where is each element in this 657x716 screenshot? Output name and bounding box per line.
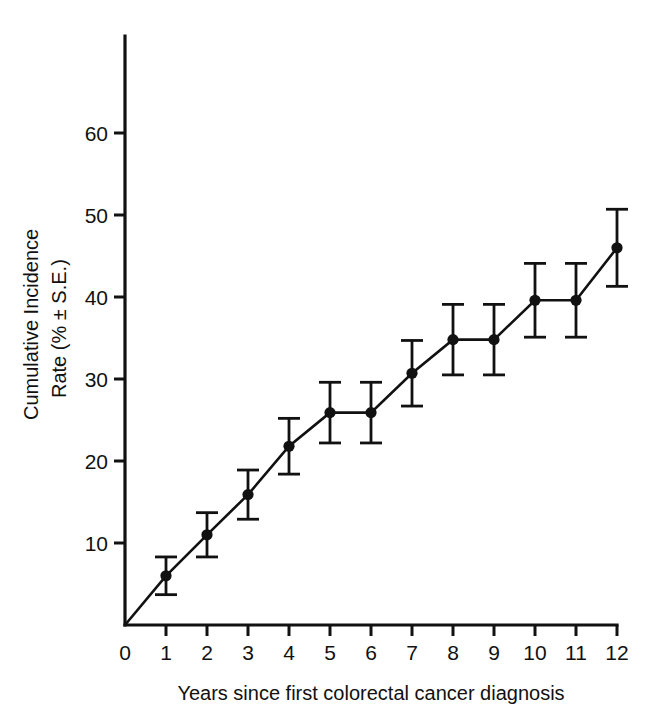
x-tick-label: 8 bbox=[447, 641, 459, 664]
y-tick-label: 50 bbox=[85, 204, 108, 227]
x-tick-label: 10 bbox=[523, 641, 546, 664]
error-bar-group bbox=[155, 209, 628, 594]
y-axis-title: Cumulative Incidence Rate (% ± S.E.) bbox=[20, 229, 70, 420]
cumulative-incidence-line-chart: Cumulative Incidence Rate (% ± S.E.) 102… bbox=[0, 0, 657, 716]
y-tick-label: 10 bbox=[85, 532, 108, 555]
y-tick-label: 30 bbox=[85, 368, 108, 391]
x-axis-ticks: 0123456789101112 bbox=[119, 625, 629, 664]
x-tick-label: 4 bbox=[283, 641, 295, 664]
data-point-marker bbox=[611, 242, 622, 253]
figure-container: Cumulative Incidence Rate (% ± S.E.) 102… bbox=[0, 0, 657, 716]
data-point-marker bbox=[324, 407, 335, 418]
x-tick-label: 3 bbox=[242, 641, 254, 664]
data-point-marker bbox=[529, 295, 540, 306]
data-point-marker bbox=[242, 489, 253, 500]
data-point-marker bbox=[488, 334, 499, 345]
y-tick-label: 60 bbox=[85, 122, 108, 145]
data-point-marker bbox=[447, 334, 458, 345]
data-point-marker bbox=[160, 570, 171, 581]
y-tick-label: 20 bbox=[85, 450, 108, 473]
x-tick-label: 12 bbox=[605, 641, 628, 664]
x-tick-label: 0 bbox=[119, 641, 131, 664]
y-tick-label: 40 bbox=[85, 286, 108, 309]
y-axis-title-line1: Cumulative Incidence bbox=[20, 229, 42, 420]
x-tick-label: 11 bbox=[565, 641, 587, 664]
x-axis-title: Years since first colorectal cancer diag… bbox=[177, 682, 564, 704]
x-tick-label: 5 bbox=[324, 641, 336, 664]
data-point-marker bbox=[570, 295, 581, 306]
y-axis-ticks: 102030405060 bbox=[85, 122, 125, 555]
data-point-marker bbox=[406, 368, 417, 379]
y-axis-title-line2: Rate (% ± S.E.) bbox=[48, 259, 70, 398]
data-point-marker bbox=[201, 529, 212, 540]
x-tick-label: 1 bbox=[160, 641, 172, 664]
x-tick-label: 6 bbox=[365, 641, 377, 664]
x-tick-label: 2 bbox=[201, 641, 213, 664]
x-tick-label: 9 bbox=[488, 641, 500, 664]
data-point-marker bbox=[283, 441, 294, 452]
x-tick-label: 7 bbox=[406, 641, 418, 664]
data-point-marker bbox=[365, 407, 376, 418]
data-point-group bbox=[160, 242, 622, 581]
